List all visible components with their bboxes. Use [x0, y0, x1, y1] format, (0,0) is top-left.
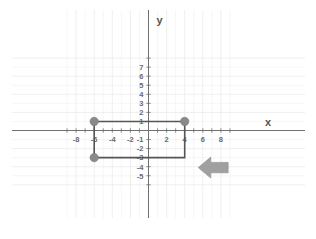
y-tick-label: 3 [139, 99, 143, 108]
x-tick-label: 2 [165, 135, 169, 144]
x-tick-label: 6 [201, 135, 205, 144]
coordinate-plane-graph: -8-6-4-224687654321-1-2-3-4-5 yx [0, 0, 316, 239]
vertex-dot [90, 153, 98, 161]
y-tick-label: -4 [137, 163, 144, 172]
y-tick-label: -2 [137, 144, 144, 153]
plot-canvas: -8-6-4-224687654321-1-2-3-4-5 yx [0, 0, 316, 239]
vertex-dot [90, 117, 98, 125]
y-tick-label: 5 [139, 81, 143, 90]
y-tick-label: 2 [139, 108, 143, 117]
y-tick-label: 7 [139, 63, 143, 72]
grid-lines [12, 10, 305, 218]
y-tick-label: -1 [137, 135, 144, 144]
y-tick-label: 6 [139, 72, 143, 81]
vertex-dot [181, 117, 189, 125]
x-tick-label: 8 [219, 135, 223, 144]
x-tick-label: -4 [109, 135, 116, 144]
axis-names: yx [157, 14, 273, 128]
axis-lines [12, 10, 305, 218]
y-axis-label: y [157, 14, 164, 26]
x-tick-label: -8 [73, 135, 80, 144]
y-tick-label: -5 [137, 172, 144, 181]
x-axis-label: x [265, 116, 272, 128]
x-tick-label: -2 [127, 135, 134, 144]
